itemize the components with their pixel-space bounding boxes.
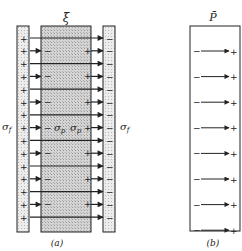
svg-text:+: + bbox=[230, 226, 238, 236]
free-charge-plus: + bbox=[20, 34, 28, 44]
bound-charge-plus: + bbox=[84, 199, 92, 209]
free-charge-plus: + bbox=[20, 110, 28, 120]
right-free-charge-label: σf bbox=[120, 121, 131, 134]
free-charge-plus: + bbox=[20, 149, 28, 159]
svg-text:−: − bbox=[193, 148, 201, 158]
free-charge-minus: − bbox=[106, 46, 114, 56]
caption-b: (b) bbox=[207, 238, 220, 248]
free-charge-plus: + bbox=[20, 123, 28, 133]
svg-text:−: − bbox=[193, 225, 201, 235]
bound-charge-plus: + bbox=[84, 148, 92, 158]
free-charge-minus: − bbox=[106, 72, 114, 82]
bound-charge-minus: − bbox=[44, 174, 52, 184]
bound-charge-minus: − bbox=[44, 97, 52, 107]
svg-text:+: + bbox=[230, 47, 238, 57]
free-charge-minus: − bbox=[106, 149, 114, 159]
free-charge-minus: − bbox=[106, 123, 114, 133]
left-free-charge-label: σf bbox=[2, 121, 13, 134]
bound-charge-plus: + bbox=[84, 174, 92, 184]
capacitor-diagram: ξ̄ +−+−−++−+−−++−+−−++−+−−++−+−−++−+−−++… bbox=[0, 0, 242, 251]
svg-text:+: + bbox=[230, 175, 238, 185]
bound-charge-plus: + bbox=[84, 46, 92, 56]
free-charge-minus: − bbox=[106, 59, 114, 69]
panel-a: ξ̄ +−+−−++−+−−++−+−−++−+−−++−+−−++−+−−++… bbox=[2, 11, 131, 248]
free-charge-minus: − bbox=[106, 213, 114, 223]
free-charge-plus: + bbox=[20, 200, 28, 210]
panel-b: P̄ −+−+−+−+−+−+−+−+ (b) bbox=[190, 11, 240, 248]
svg-text:+: + bbox=[230, 123, 238, 133]
free-charge-plus: + bbox=[20, 136, 28, 146]
svg-text:+: + bbox=[230, 72, 238, 82]
free-charge-minus: − bbox=[106, 110, 114, 120]
svg-text:+: + bbox=[230, 149, 238, 159]
bound-charge-plus: + bbox=[84, 97, 92, 107]
free-charge-plus: + bbox=[20, 98, 28, 108]
free-charge-minus: − bbox=[106, 98, 114, 108]
svg-text:−: − bbox=[193, 200, 201, 210]
free-charge-plus: + bbox=[20, 213, 28, 223]
free-charge-plus: + bbox=[20, 162, 28, 172]
svg-text:−: − bbox=[193, 123, 201, 133]
bound-charge-plus: + bbox=[84, 71, 92, 81]
svg-text:+: + bbox=[230, 200, 238, 210]
bound-charge-minus: − bbox=[44, 46, 52, 56]
svg-text:−: − bbox=[193, 46, 201, 56]
svg-text:−: − bbox=[44, 123, 52, 133]
bound-charge-minus: − bbox=[44, 199, 52, 209]
free-charge-minus: − bbox=[106, 200, 114, 210]
free-charge-minus: − bbox=[106, 162, 114, 172]
free-charge-minus: − bbox=[106, 34, 114, 44]
free-charge-minus: − bbox=[106, 174, 114, 184]
svg-text:+: + bbox=[84, 123, 92, 133]
free-charge-plus: + bbox=[20, 46, 28, 56]
free-charge-plus: + bbox=[20, 174, 28, 184]
field-label-xi: ξ̄ bbox=[63, 11, 71, 25]
bound-charge-minus: − bbox=[44, 148, 52, 158]
svg-text:−: − bbox=[193, 97, 201, 107]
field-label-p: P̄ bbox=[208, 11, 217, 24]
svg-text:−: − bbox=[193, 174, 201, 184]
free-charge-minus: − bbox=[106, 187, 114, 197]
free-charge-plus: + bbox=[20, 85, 28, 95]
free-charge-minus: − bbox=[106, 85, 114, 95]
free-charge-plus: + bbox=[20, 59, 28, 69]
free-charge-minus: − bbox=[106, 136, 114, 146]
svg-text:−: − bbox=[193, 72, 201, 82]
free-charge-plus: + bbox=[20, 187, 28, 197]
bound-charge-minus: − bbox=[44, 71, 52, 81]
caption-a: (a) bbox=[51, 238, 64, 248]
free-charge-plus: + bbox=[20, 72, 28, 82]
svg-text:+: + bbox=[230, 98, 238, 108]
